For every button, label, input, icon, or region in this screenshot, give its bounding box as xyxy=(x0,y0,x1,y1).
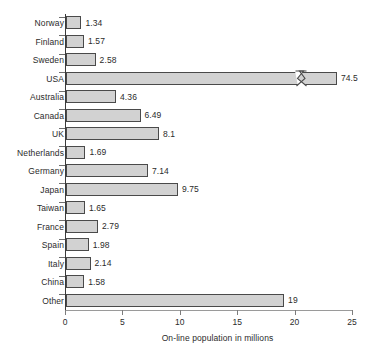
category-label: Netherlands xyxy=(2,144,64,163)
bar xyxy=(66,238,89,251)
bar-value-label: 1.98 xyxy=(93,239,110,252)
category-label: China xyxy=(2,273,64,292)
x-axis-tick-label: 20 xyxy=(290,317,299,327)
x-axis-tick xyxy=(180,310,181,315)
bar-value-label: 1.34 xyxy=(85,17,102,30)
category-label: Spain xyxy=(2,236,64,255)
x-axis-line xyxy=(65,310,353,311)
bar xyxy=(66,35,84,48)
bar xyxy=(66,53,96,66)
bar-row: Sweden2.58 xyxy=(0,51,379,70)
bar-row: Spain1.98 xyxy=(0,236,379,255)
x-axis-tick-label: 5 xyxy=(120,317,125,327)
x-axis-title: On-line population in millions xyxy=(0,333,379,343)
plot-area: Norway1.34Finland1.57Sweden2.58USA74.5Au… xyxy=(0,0,379,357)
bar-row: Australia4.36 xyxy=(0,88,379,107)
x-axis-tick xyxy=(237,310,238,315)
x-axis-tick xyxy=(352,310,353,315)
bar xyxy=(66,294,284,307)
bar xyxy=(66,257,91,270)
x-axis-tick xyxy=(295,310,296,315)
category-label: France xyxy=(2,218,64,237)
bar-chart: Norway1.34Finland1.57Sweden2.58USA74.5Au… xyxy=(0,0,379,357)
bar xyxy=(66,109,141,122)
category-label: Germany xyxy=(2,162,64,181)
category-label: USA xyxy=(2,70,64,89)
bar xyxy=(66,72,337,85)
category-label: Canada xyxy=(2,107,64,126)
bar-row: Netherlands1.69 xyxy=(0,144,379,163)
bar-row: Canada6.49 xyxy=(0,107,379,126)
bar-value-label: 9.75 xyxy=(182,183,199,196)
bar-value-label: 4.36 xyxy=(120,91,137,104)
bar-row: UK8.1 xyxy=(0,125,379,144)
bar-value-label: 74.5 xyxy=(341,72,358,85)
bar-row: France2.79 xyxy=(0,218,379,237)
bar-value-label: 7.14 xyxy=(152,165,169,178)
bar-row: USA74.5 xyxy=(0,70,379,89)
bar xyxy=(66,164,148,177)
x-axis-title-text: On-line population in millions xyxy=(162,333,274,343)
bar xyxy=(66,275,84,288)
x-axis-tick-label: 0 xyxy=(63,317,68,327)
category-label: Other xyxy=(2,292,64,311)
bar xyxy=(66,16,81,29)
bar-row: Italy2.14 xyxy=(0,255,379,274)
bar-value-label: 2.58 xyxy=(100,54,117,67)
bar-row: Other19 xyxy=(0,292,379,311)
bar-row: Taiwan1.65 xyxy=(0,199,379,218)
category-label: Norway xyxy=(2,14,64,33)
bar xyxy=(66,220,98,233)
bar-value-label: 6.49 xyxy=(145,109,162,122)
x-axis-tick-label: 15 xyxy=(232,317,241,327)
bar xyxy=(66,146,85,159)
bar-value-label: 1.65 xyxy=(89,202,106,215)
category-label: Finland xyxy=(2,33,64,52)
category-label: Japan xyxy=(2,181,64,200)
bar-row: Norway1.34 xyxy=(0,14,379,33)
bar xyxy=(66,201,85,214)
category-label: Australia xyxy=(2,88,64,107)
x-axis-tick-label: 25 xyxy=(347,317,356,327)
category-label: Italy xyxy=(2,255,64,274)
bar-row: Japan9.75 xyxy=(0,181,379,200)
bar-value-label: 1.57 xyxy=(88,35,105,48)
category-label: Taiwan xyxy=(2,199,64,218)
bar-value-label: 19 xyxy=(288,294,298,307)
bar-row: China1.58 xyxy=(0,273,379,292)
bar-row: Finland1.57 xyxy=(0,33,379,52)
bar-value-label: 2.14 xyxy=(95,257,112,270)
bar-value-label: 1.58 xyxy=(88,276,105,289)
x-axis-tick-label: 10 xyxy=(175,317,184,327)
category-label: Sweden xyxy=(2,51,64,70)
bar xyxy=(66,127,159,140)
bar-value-label: 1.69 xyxy=(89,146,106,159)
bar xyxy=(66,90,116,103)
x-axis-tick xyxy=(122,310,123,315)
bar-row: Germany7.14 xyxy=(0,162,379,181)
bar-value-label: 8.1 xyxy=(163,128,175,141)
category-label: UK xyxy=(2,125,64,144)
bar xyxy=(66,183,178,196)
x-axis-tick xyxy=(65,310,66,315)
bar-value-label: 2.79 xyxy=(102,220,119,233)
